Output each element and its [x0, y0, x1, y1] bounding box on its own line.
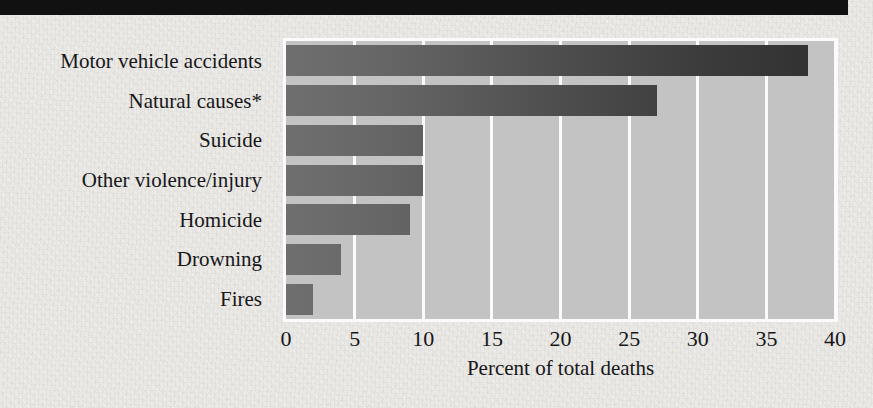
bar-chart: Motor vehicle accidentsNatural causes*Su…: [0, 15, 873, 408]
bar: [286, 85, 657, 116]
bar-row: [286, 125, 835, 156]
plot-area: [283, 38, 838, 322]
bar: [286, 45, 808, 76]
bar-row: [286, 45, 835, 76]
category-label: Natural causes*: [10, 91, 262, 112]
category-label: Motor vehicle accidents: [10, 51, 262, 72]
category-axis-labels: Motor vehicle accidentsNatural causes*Su…: [10, 38, 272, 322]
bar-row: [286, 165, 835, 196]
bar-row: [286, 284, 835, 315]
bar: [286, 125, 423, 156]
bar-series: [286, 41, 835, 319]
category-label: Suicide: [10, 130, 262, 151]
x-tick-label: 0: [281, 327, 292, 351]
x-tick-label: 30: [687, 327, 709, 351]
x-tick-label: 10: [412, 327, 434, 351]
bar-row: [286, 204, 835, 235]
x-tick-label: 40: [824, 327, 846, 351]
bar: [286, 165, 423, 196]
chart-figure: Motor vehicle accidentsNatural causes*Su…: [0, 0, 873, 408]
top-black-band: [0, 0, 848, 15]
x-tick-label: 15: [481, 327, 503, 351]
bar-row: [286, 85, 835, 116]
category-label: Fires: [10, 289, 262, 310]
x-tick-label: 25: [618, 327, 640, 351]
bar: [286, 204, 410, 235]
bar: [286, 244, 341, 275]
category-label: Homicide: [10, 210, 262, 231]
bar: [286, 284, 313, 315]
bar-row: [286, 244, 835, 275]
x-axis-title: Percent of total deaths: [283, 357, 838, 380]
x-axis-tick-labels: 0510152025303540: [283, 327, 838, 355]
x-tick-label: 20: [550, 327, 572, 351]
x-tick-label: 5: [349, 327, 360, 351]
category-label: Drowning: [10, 249, 262, 270]
category-label: Other violence/injury: [10, 170, 262, 191]
x-tick-label: 35: [755, 327, 777, 351]
